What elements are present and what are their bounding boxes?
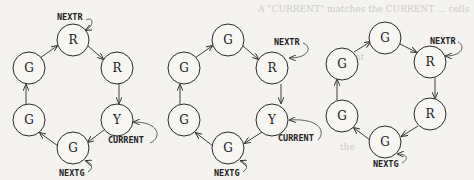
svg-text:Y: Y [112,113,122,127]
node-g-lower-left: G [168,104,200,136]
svg-text:G: G [24,113,34,127]
diagram-1: R R Y G G G NEXTR CURRENT NEXTG [13,12,157,178]
svg-text:R: R [425,55,435,69]
node-y: Y [101,104,133,136]
node-r-right: R [101,52,133,84]
svg-text:G: G [179,113,189,127]
node-y: Y [256,104,288,136]
svg-text:G: G [380,135,390,149]
svg-text:G: G [179,61,189,75]
svg-text:R: R [112,61,122,75]
node-r-right: R [256,52,288,84]
svg-text:G: G [337,57,347,71]
svg-text:A "CURRENT" matches the CURRE: A "CURRENT" matches the CURRENT ... cell… [257,4,470,14]
node-r-top: R [57,24,89,56]
svg-text:G: G [68,141,78,155]
svg-text:R: R [68,33,78,47]
nextr-label: NEXTR [57,12,83,22]
nextr-label: NEXTR [430,36,456,46]
nextg-pointer-arrow [241,161,247,172]
node-g-upper-left: G [13,52,45,84]
svg-text:R: R [425,107,435,121]
svg-text:G: G [223,33,233,47]
nextg-label: NEXTG [214,168,240,178]
nextg-label: NEXTG [373,159,399,169]
svg-text:G: G [380,31,390,45]
svg-text:R: R [267,61,277,75]
node-g-bottom: G [212,132,244,164]
node-r-lower-right: R [414,98,446,130]
svg-text:G: G [24,61,34,75]
node-g-upper-left: G [168,52,200,84]
node-g-upper-left: G [326,48,358,80]
node-g-top: G [212,24,244,56]
nextg-label: NEXTG [59,168,85,178]
svg-text:G: G [337,109,347,123]
node-g-top: G [369,22,401,54]
node-r-right: R [414,46,446,78]
node-g-bottom: G [57,132,89,164]
svg-text:G: G [223,141,233,155]
diagram-2: G R Y G G G NEXTR CURRENT NEXTG [168,24,321,178]
node-g-lower-left: G [326,100,358,132]
nextr-label: NEXTR [274,37,300,47]
node-g-bottom: G [369,126,401,158]
nextg-pointer-arrow [398,154,406,163]
figure-canvas: A "CURRENT" matches the CURRENT ... cell… [0,0,474,180]
current-label: CURRENT [278,133,314,143]
node-g-lower-left: G [13,104,45,136]
bleed-through-text: A "CURRENT" matches the CURRENT ... cell… [257,4,470,152]
nextg-pointer-arrow [86,161,92,172]
svg-text:Y: Y [267,113,277,127]
nextr-pointer-arrow [86,19,92,30]
diagram-svg: A "CURRENT" matches the CURRENT ... cell… [0,0,474,180]
current-label: CURRENT [108,135,144,145]
svg-text:the: the [340,142,355,152]
